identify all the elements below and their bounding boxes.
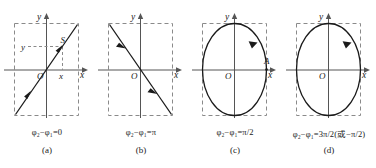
panel-c-label: (c) <box>188 145 282 155</box>
panel-c-equation: φ₂−φ₁=π/2 <box>188 127 282 137</box>
direction-arrow <box>343 41 352 48</box>
panel-d-label: (d) <box>282 145 376 155</box>
y-axis-label: y <box>130 12 136 22</box>
panel-c: x y O A φ₂−φ₁=π/2 (c) <box>188 0 282 168</box>
panel-a-label: (a) <box>0 145 94 155</box>
panel-b: x y O φ₂−φ₁=π (b) <box>94 0 188 168</box>
y-axis-arrowhead <box>138 13 143 19</box>
direction-arrow <box>249 41 258 48</box>
point-a-label: A <box>263 56 270 66</box>
panel-a-plot: x y O S y x <box>0 0 94 124</box>
origin-label: O <box>37 71 44 81</box>
panel-a-equation: φ₂−φ₁=0 <box>0 127 94 137</box>
panel-a: x y O S y x φ₂−φ₁=0 (a) <box>0 0 94 168</box>
panel-b-equation: φ₂−φ₁=π <box>94 127 188 137</box>
x-axis-label: x <box>79 70 85 80</box>
y-axis-arrowhead <box>326 13 331 19</box>
y-axis-arrowhead <box>44 13 49 19</box>
x-axis-label: x <box>267 70 273 80</box>
x-value-label: x <box>58 71 63 81</box>
y-value-label: y <box>20 42 25 52</box>
direction-arrow-lower <box>24 91 31 99</box>
x-axis-label: x <box>173 70 179 80</box>
panel-b-plot: x y O <box>94 0 188 124</box>
panel-c-plot: x y O A <box>188 0 282 124</box>
point-s-label: S <box>61 35 66 45</box>
origin-label: O <box>225 71 232 81</box>
panel-d: x y O φ₂−φ₁=3π/2(或−π/2) (d) <box>282 0 376 168</box>
panel-d-plot: x y O <box>282 0 376 124</box>
y-axis-label: y <box>318 12 324 22</box>
origin-label: O <box>131 71 138 81</box>
origin-label: O <box>319 71 326 81</box>
lissajous-figure-panels: x y O S y x φ₂−φ₁=0 (a) x <box>0 0 376 168</box>
panel-b-label: (b) <box>94 145 188 155</box>
panel-d-equation: φ₂−φ₁=3π/2(或−π/2) <box>282 127 376 139</box>
y-axis-arrowhead <box>232 13 237 19</box>
y-axis-label: y <box>36 12 42 22</box>
y-axis-label: y <box>224 12 230 22</box>
x-axis-label: x <box>361 70 367 80</box>
